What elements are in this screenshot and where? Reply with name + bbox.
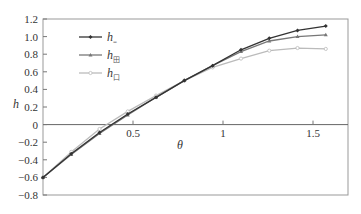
- legend-label: h口: [107, 66, 120, 82]
- circle-marker-icon: [98, 127, 101, 130]
- circle-marker-icon: [296, 46, 299, 49]
- series-line: [41, 24, 328, 179]
- y-tick-label: 0.6: [24, 66, 38, 78]
- y-tick-label: 0.8: [24, 48, 38, 60]
- y-tick-label: −0.8: [18, 189, 38, 201]
- circle-marker-icon: [89, 71, 92, 74]
- plot-frame: [43, 19, 348, 195]
- y-tick-label: 0.2: [24, 101, 38, 113]
- legend-item: h=: [79, 30, 117, 46]
- y-tick-label: −0.2: [18, 136, 38, 148]
- legend-item: h田: [79, 48, 120, 64]
- circle-marker-icon: [324, 47, 327, 50]
- series-line: [41, 46, 327, 179]
- x-tick-label: 1.5: [306, 127, 320, 139]
- y-tick-label: −0.6: [18, 171, 38, 183]
- y-tick-label: −0.4: [18, 154, 38, 166]
- y-tick-label: 1.0: [24, 31, 38, 43]
- series-group: [41, 24, 328, 179]
- x-tick-label: 0.5: [126, 127, 140, 139]
- x-tick-label: 1: [220, 127, 226, 139]
- diamond-marker-icon: [296, 28, 300, 32]
- x-axis: 0.511.5: [126, 121, 320, 139]
- diamond-marker-icon: [89, 35, 93, 39]
- y-tick-label: 1.2: [24, 13, 38, 25]
- line-chart: 1.21.00.80.60.40.20−0.2−0.4−0.6−0.8 0.51…: [0, 0, 361, 214]
- y-tick-label: 0: [33, 119, 39, 131]
- diamond-marker-icon: [324, 24, 328, 28]
- circle-marker-icon: [268, 49, 271, 52]
- diamond-marker-icon: [267, 36, 271, 40]
- legend-item: h口: [79, 66, 120, 82]
- legend-label: h田: [107, 48, 120, 64]
- circle-marker-icon: [239, 57, 242, 60]
- y-axis-title: h: [13, 97, 19, 111]
- y-tick-label: 0.4: [24, 83, 38, 95]
- legend-label: h=: [107, 30, 117, 46]
- legend: h=h田h口: [79, 30, 120, 82]
- x-axis-title: θ: [177, 138, 183, 152]
